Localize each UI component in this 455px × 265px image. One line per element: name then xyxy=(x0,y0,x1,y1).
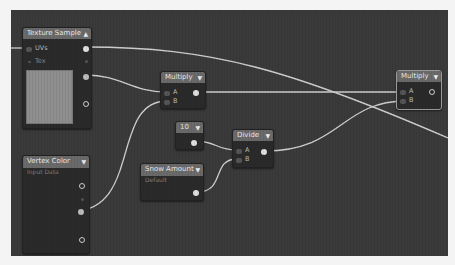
output-pin-tex[interactable] xyxy=(85,60,88,63)
collapse-arrow-icon[interactable]: ▼ xyxy=(195,164,200,175)
pin-label-tex: Tex xyxy=(35,57,46,65)
pin-label-a: A xyxy=(409,87,413,95)
input-pin-b[interactable] xyxy=(236,158,242,163)
node-texture-sample[interactable]: Texture Sample ▲ UVs Tex xyxy=(22,27,92,129)
output-pin-alpha[interactable] xyxy=(83,101,89,107)
wire-divide-to-multiply2-b xyxy=(265,101,406,151)
node-subtitle: Default xyxy=(145,176,167,183)
texture-preview xyxy=(26,70,73,124)
pin-label-a: A xyxy=(173,88,177,96)
collapse-arrow-icon[interactable]: ▼ xyxy=(197,72,202,83)
output-pin[interactable] xyxy=(429,89,435,95)
input-pin-uvs[interactable] xyxy=(26,47,32,52)
node-title[interactable]: 10 ▼ xyxy=(176,122,203,133)
output-pin-r[interactable] xyxy=(81,198,84,201)
pin-label-b: B xyxy=(409,96,413,104)
output-pin[interactable] xyxy=(191,140,197,146)
collapse-arrow-icon[interactable]: ▼ xyxy=(433,71,438,82)
node-title[interactable]: Vertex Color ▼ xyxy=(23,156,89,168)
pin-label-uvs: UVs xyxy=(35,44,48,52)
output-pin-a[interactable] xyxy=(79,237,85,243)
node-title[interactable]: Multiply ▼ xyxy=(161,72,205,83)
wire-texture-to-multiply-a xyxy=(86,75,167,92)
input-pin-b[interactable] xyxy=(400,99,406,104)
input-pin-a[interactable] xyxy=(400,90,406,95)
node-title[interactable]: Divide ▼ xyxy=(233,130,273,141)
input-pin-a[interactable] xyxy=(164,91,170,96)
collapse-arrow-icon[interactable]: ▼ xyxy=(265,130,270,141)
output-pin-uvs[interactable] xyxy=(83,46,89,52)
output-pin[interactable] xyxy=(193,190,199,196)
node-title[interactable]: Texture Sample ▲ xyxy=(23,28,91,39)
node-snow-amount[interactable]: Snow Amount ▼ Default xyxy=(140,163,204,201)
input-pin-b[interactable] xyxy=(164,100,170,105)
output-pin[interactable] xyxy=(261,149,267,155)
material-graph-canvas[interactable]: Texture Sample ▲ UVs Tex Vertex Color ▼ … xyxy=(11,10,448,256)
node-multiply-1[interactable]: Multiply ▼ A B xyxy=(160,71,206,109)
pin-label-b: B xyxy=(173,97,177,105)
node-title[interactable]: Snow Amount ▼ xyxy=(141,164,203,176)
input-pin-a[interactable] xyxy=(236,149,242,154)
collapse-arrow-icon[interactable]: ▼ xyxy=(195,122,200,133)
output-pin[interactable] xyxy=(193,90,199,96)
input-pin-tex[interactable] xyxy=(28,61,31,63)
output-pin-rgb[interactable] xyxy=(79,183,85,189)
collapse-arrow-icon[interactable]: ▼ xyxy=(81,156,86,167)
node-divide[interactable]: Divide ▼ A B xyxy=(232,129,274,168)
output-pin-rgb[interactable] xyxy=(83,74,89,80)
pin-label-a: A xyxy=(245,146,249,154)
node-title[interactable]: Multiply ▼ xyxy=(397,71,441,82)
node-vertex-color[interactable]: Vertex Color ▼ Input Data xyxy=(22,155,90,254)
output-pin-g[interactable] xyxy=(78,209,84,215)
pin-label-b: B xyxy=(245,155,249,163)
collapse-arrow-icon[interactable]: ▲ xyxy=(83,28,88,39)
node-multiply-2[interactable]: Multiply ▼ A B xyxy=(396,70,442,110)
node-subtitle: Input Data xyxy=(27,168,59,175)
node-constant-10[interactable]: 10 ▼ xyxy=(175,121,204,150)
